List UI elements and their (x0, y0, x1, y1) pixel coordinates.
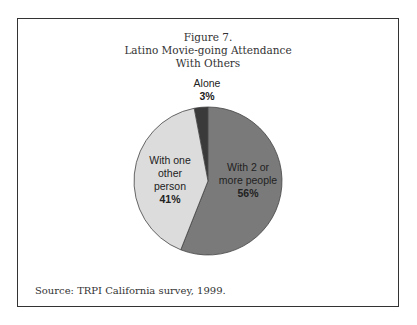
label-two-plus-pct: 56% (237, 187, 259, 199)
label-two-plus-line1: With 2 or (227, 161, 270, 173)
label-alone-pct: 3% (199, 90, 215, 102)
label-one-other-line1: With one (149, 154, 191, 166)
label-one-other-pct: 41% (159, 193, 181, 205)
label-two-plus-line2: more people (219, 174, 278, 186)
label-alone: Alone (194, 77, 221, 89)
label-one-other-line3: person (154, 180, 186, 192)
label-one-other-line2: other (158, 167, 182, 179)
pie-chart: Alone 3% With 2 or more people 56% With … (0, 0, 417, 325)
